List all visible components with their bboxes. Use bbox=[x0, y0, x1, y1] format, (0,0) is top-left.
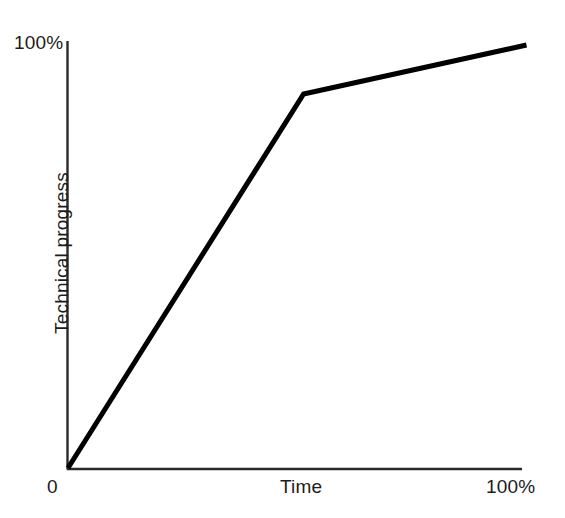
y-axis-title: Technical progress bbox=[52, 172, 71, 334]
axis-origin-label: 0 bbox=[47, 477, 58, 496]
chart-figure: 100% 0 Time 100% Technical progress bbox=[0, 0, 565, 518]
y-axis-max-tick-label: 100% bbox=[14, 33, 63, 52]
chart-plot-area bbox=[0, 0, 565, 518]
x-axis-max-tick-label: 100% bbox=[486, 477, 535, 496]
x-axis-title: Time bbox=[280, 477, 322, 496]
technical-progress-curve bbox=[68, 45, 527, 468]
